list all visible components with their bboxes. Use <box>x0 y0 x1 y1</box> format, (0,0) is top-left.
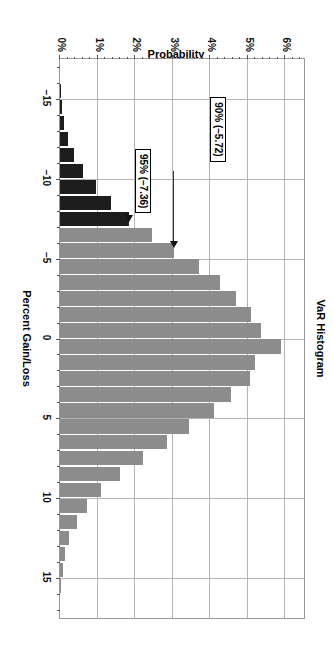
y-tick-label: 2% <box>131 20 142 52</box>
histogram-bar <box>60 116 65 130</box>
histogram-bar <box>60 259 199 273</box>
x-tick-minor <box>58 594 61 595</box>
x-tick <box>56 179 60 180</box>
y-tick <box>97 55 98 59</box>
histogram-bars <box>60 59 304 618</box>
histogram-bar <box>60 563 63 577</box>
y-tick <box>247 55 248 59</box>
y-tick-minor <box>67 57 68 60</box>
x-tick <box>56 498 60 499</box>
x-tick-minor <box>58 370 61 371</box>
x-tick-minor <box>58 562 61 563</box>
x-tick-minor <box>58 610 61 611</box>
y-tick-minor <box>179 57 180 60</box>
y-tick-minor <box>82 57 83 60</box>
x-tick-minor <box>58 323 61 324</box>
x-tick-label: –5 <box>41 252 52 263</box>
x-tick <box>56 339 60 340</box>
x-tick-minor <box>58 402 61 403</box>
annotation-arrowhead <box>125 215 133 222</box>
histogram-bar <box>60 451 143 465</box>
annotation-leader-line <box>174 171 175 242</box>
y-tick-minor <box>217 57 218 60</box>
x-tick <box>56 418 60 419</box>
x-tick-label: 15 <box>41 572 52 583</box>
x-tick-minor <box>58 195 61 196</box>
y-tick-minor <box>74 57 75 60</box>
x-tick-minor <box>58 275 61 276</box>
histogram-bar <box>60 515 77 529</box>
y-tick-minor <box>277 57 278 60</box>
y-tick-minor <box>224 57 225 60</box>
y-tick <box>59 55 60 59</box>
x-tick-minor <box>58 115 61 116</box>
histogram-bar <box>60 419 190 433</box>
x-tick <box>56 578 60 579</box>
x-tick-minor <box>58 354 61 355</box>
histogram-bar <box>60 387 231 401</box>
y-tick-label: 5% <box>243 20 254 52</box>
y-tick-minor <box>269 57 270 60</box>
y-tick-minor <box>89 57 90 60</box>
y-tick-label: 3% <box>168 20 179 52</box>
x-tick <box>56 259 60 260</box>
x-tick-label: 0 <box>41 335 52 341</box>
x-tick-label: –15 <box>41 90 52 107</box>
histogram-bar <box>60 435 167 449</box>
plot-area: 90% (–5.72)95% (–7.36) <box>59 58 305 619</box>
histogram-bar <box>60 291 236 305</box>
y-tick <box>209 55 210 59</box>
annotation-callout: 95% (–7.36) <box>135 149 152 213</box>
histogram-bar <box>60 339 281 353</box>
histogram-bar <box>60 84 62 98</box>
histogram-bar <box>60 467 120 481</box>
x-tick-minor <box>58 131 61 132</box>
x-tick-minor <box>58 434 61 435</box>
annotation-arrowhead <box>171 241 179 248</box>
y-tick-minor <box>112 57 113 60</box>
y-tick-label: 0% <box>56 20 67 52</box>
x-tick-minor <box>58 546 61 547</box>
histogram-bar <box>60 323 261 337</box>
x-tick-minor <box>58 530 61 531</box>
y-tick <box>284 55 285 59</box>
y-tick <box>134 55 135 59</box>
annotation-callout: 90% (–5.72) <box>210 97 227 161</box>
rotated-figure-wrapper: VaR Histogram Probability Percent Gain/L… <box>0 0 333 667</box>
y-tick-minor <box>292 57 293 60</box>
x-tick-minor <box>58 163 61 164</box>
histogram-bar <box>60 499 87 513</box>
y-tick-minor <box>299 57 300 60</box>
x-tick-minor <box>58 386 61 387</box>
y-tick-minor <box>194 57 195 60</box>
y-tick-minor <box>119 57 120 60</box>
y-tick-minor <box>232 57 233 60</box>
y-tick-minor <box>104 57 105 60</box>
histogram-bar <box>60 531 69 545</box>
histogram-bar <box>60 483 101 497</box>
y-tick-minor <box>262 57 263 60</box>
y-tick-minor <box>254 57 255 60</box>
annotation-leader-line <box>128 223 129 225</box>
histogram-bar <box>60 180 96 194</box>
histogram-bar <box>60 164 83 178</box>
x-tick-minor <box>58 450 61 451</box>
x-tick-minor <box>58 243 61 244</box>
x-tick-label: 10 <box>41 492 52 503</box>
y-tick-minor <box>164 57 165 60</box>
histogram-bar <box>60 403 214 417</box>
histogram-bar <box>60 148 74 162</box>
histogram-bar <box>60 228 152 242</box>
x-tick-label: –10 <box>41 169 52 186</box>
histogram-bar <box>60 243 174 257</box>
x-tick-minor <box>58 227 61 228</box>
histogram-bar <box>60 212 129 226</box>
histogram-bar <box>60 355 255 369</box>
y-tick-minor <box>187 57 188 60</box>
x-tick-minor <box>58 147 61 148</box>
y-tick-minor <box>239 57 240 60</box>
y-tick-minor <box>157 57 158 60</box>
y-tick-minor <box>142 57 143 60</box>
var-histogram-figure: VaR Histogram Probability Percent Gain/L… <box>0 0 333 667</box>
histogram-bar <box>60 275 220 289</box>
